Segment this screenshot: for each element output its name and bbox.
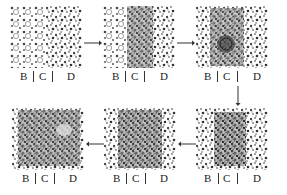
- cluster-void-image: [196, 6, 268, 68]
- label-c: C: [223, 70, 230, 82]
- ordered-lattice-image: [10, 6, 82, 68]
- region-labels-2: B C D: [103, 70, 175, 84]
- divider-bc: [218, 173, 219, 184]
- arrow-left-icon: [178, 141, 196, 147]
- label-b: B: [113, 172, 120, 184]
- label-b: B: [204, 70, 211, 82]
- snapshot-panel-5: [104, 108, 176, 170]
- label-d: D: [160, 172, 168, 184]
- large-cluster-image: [196, 108, 268, 170]
- snapshot-panel-6: [12, 108, 84, 170]
- label-b: B: [204, 172, 211, 184]
- divider-bc: [33, 71, 34, 82]
- label-c: C: [39, 70, 46, 82]
- divider-cd: [144, 71, 145, 82]
- snapshot-panel-2: [103, 6, 175, 68]
- label-b: B: [112, 70, 119, 82]
- divider-bc: [126, 173, 127, 184]
- dense-center-image: [104, 108, 176, 170]
- region-labels-3: B C D: [196, 70, 268, 84]
- label-c: C: [223, 172, 230, 184]
- dense-disordered-image: [12, 108, 84, 170]
- label-d: D: [160, 70, 168, 82]
- region-labels-1: B C D: [10, 70, 82, 84]
- snapshot-panel-4: [196, 108, 268, 170]
- divider-bc: [217, 71, 218, 82]
- label-b: B: [20, 70, 27, 82]
- label-d: D: [253, 70, 261, 82]
- partially-disordered-image: [103, 6, 175, 68]
- arrow-right-icon: [177, 40, 195, 46]
- label-d: D: [67, 70, 75, 82]
- divider-cd: [237, 71, 238, 82]
- snapshot-panel-3: [196, 6, 268, 68]
- snapshot-panel-1: [10, 6, 82, 68]
- label-b: B: [22, 172, 29, 184]
- arrow-down-icon: [235, 86, 241, 106]
- label-c: C: [41, 172, 48, 184]
- arrow-left-icon: [86, 141, 104, 147]
- divider-cd: [54, 173, 55, 184]
- label-c: C: [131, 70, 138, 82]
- label-d: D: [69, 172, 77, 184]
- divider-cd: [145, 173, 146, 184]
- region-labels-5: B C D: [104, 172, 176, 186]
- arrow-right-icon: [84, 40, 102, 46]
- divider-cd: [52, 71, 53, 82]
- label-d: D: [253, 172, 261, 184]
- region-labels-4: B C D: [196, 172, 268, 186]
- region-labels-6: B C D: [12, 172, 84, 186]
- divider-cd: [237, 173, 238, 184]
- label-c: C: [132, 172, 139, 184]
- divider-bc: [35, 173, 36, 184]
- divider-bc: [125, 71, 126, 82]
